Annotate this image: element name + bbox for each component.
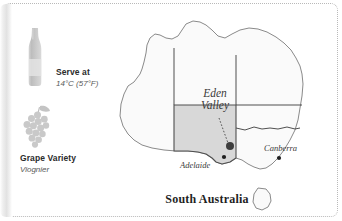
serve-at-label: Serve at: [56, 67, 120, 78]
grape-variety-label: Grape Variety: [20, 153, 118, 164]
wine-region-info-card: Serve at 14°C (57°F): [0, 0, 342, 221]
map-title: South Australia: [112, 192, 302, 207]
serve-temperature-text: Serve at 14°C (57°F): [56, 67, 120, 89]
eden-valley-label-line2: Valley: [184, 99, 246, 111]
south-australia-highlight: [174, 105, 236, 164]
australia-map: Eden Valley Adelaide Canberra: [112, 12, 336, 212]
left-edge-gradient: [0, 4, 12, 217]
adelaide-label: Adelaide: [180, 160, 210, 170]
eden-valley-marker: [226, 142, 234, 150]
wine-bottle-icon: [22, 26, 48, 88]
eden-valley-label: Eden Valley: [184, 87, 246, 111]
eden-valley-label-line1: Eden: [184, 87, 246, 99]
grape-variety-value: Viognier: [20, 164, 118, 175]
canberra-label: Canberra: [264, 143, 297, 153]
adelaide-city-dot: [222, 155, 226, 159]
canberra-city-dot: [277, 156, 281, 160]
info-panel: Serve at 14°C (57°F): [14, 18, 118, 204]
grape-variety-text: Grape Variety Viognier: [20, 153, 118, 175]
serve-temperature-value: 14°C (57°F): [56, 78, 120, 89]
grape-cluster-icon: [18, 104, 56, 150]
